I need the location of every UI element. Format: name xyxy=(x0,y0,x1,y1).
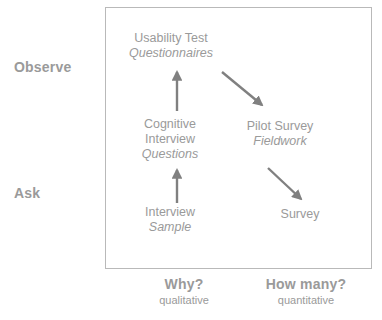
y-axis-label-ask: Ask xyxy=(14,185,40,201)
node-pilot-survey-main: Pilot Survey xyxy=(222,119,338,134)
node-usability-test-main: Usability Test xyxy=(108,31,234,46)
node-interview-main: Interview xyxy=(120,205,220,220)
node-usability-test-sub: Questionnaires xyxy=(108,46,234,61)
node-usability-test[interactable]: Usability Test Questionnaires xyxy=(108,31,234,61)
node-cognitive-interview-main-line1: Cognitive xyxy=(118,117,222,132)
x-axis-method-qualitative: qualitative xyxy=(128,293,240,307)
node-survey[interactable]: Survey xyxy=(258,207,342,222)
x-axis-question-how-many: How many? xyxy=(240,276,372,293)
x-axis-label-qualitative: Why? qualitative xyxy=(128,276,240,307)
node-pilot-survey-sub: Fieldwork xyxy=(222,134,338,149)
node-survey-main: Survey xyxy=(258,207,342,222)
x-axis-method-quantitative: quantitative xyxy=(240,293,372,307)
x-axis-label-quantitative: How many? quantitative xyxy=(240,276,372,307)
node-cognitive-interview[interactable]: Cognitive Interview Questions xyxy=(118,117,222,162)
node-interview[interactable]: Interview Sample xyxy=(120,205,220,235)
node-cognitive-interview-main-line2: Interview xyxy=(118,132,222,147)
diagram-canvas: Observe Ask Usability Test Questionnaire… xyxy=(0,0,382,320)
node-interview-sub: Sample xyxy=(120,220,220,235)
x-axis-question-why: Why? xyxy=(128,276,240,293)
node-pilot-survey[interactable]: Pilot Survey Fieldwork xyxy=(222,119,338,149)
node-cognitive-interview-sub: Questions xyxy=(118,147,222,162)
y-axis-label-observe: Observe xyxy=(14,59,71,75)
